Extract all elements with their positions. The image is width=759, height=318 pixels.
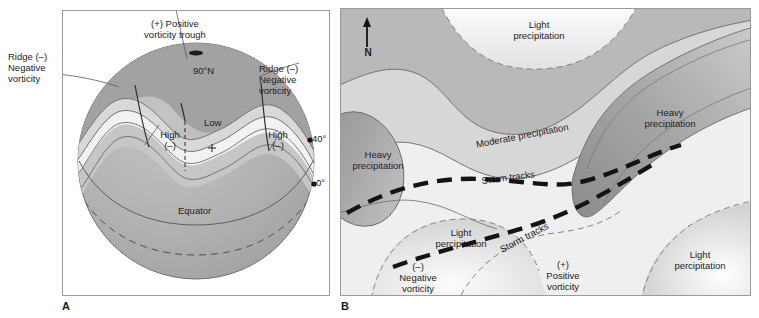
panel-b-map: N Light precipitation Heavy precipitatio… (340, 8, 751, 296)
label-north: N (359, 47, 377, 58)
label-high-left: High (–) (153, 129, 187, 151)
panel-a-globe: (+) Positive vorticity trough 90°N Low H… (62, 10, 330, 296)
label-low: Low (204, 117, 221, 128)
label-pole-90n: 90°N (193, 65, 214, 76)
label-heavy-precip-right: Heavy precipitation (627, 107, 713, 129)
label-high-right: High (–) (261, 129, 295, 151)
label-ridge-right: Ridge (–) Negative vorticity (259, 63, 298, 97)
label-positive-vorticity: (+) Positive vorticity (521, 259, 605, 293)
figure-root: (+) Positive vorticity trough 90°N Low H… (0, 0, 759, 318)
label-positive-vorticity-trough: (+) Positive vorticity trough (127, 18, 223, 40)
label-ridge-left: Ridge (–) Negative vorticity (8, 51, 47, 85)
pole-marker (189, 50, 203, 55)
panel-letter-a: A (62, 300, 70, 312)
label-light-precip-bottom-right: Light percipitation (653, 249, 747, 271)
globe-diagram (63, 11, 329, 295)
label-light-precip-top: Light precipitation (489, 19, 589, 41)
panel-letter-b: B (341, 300, 349, 312)
label-equator: Equator (175, 205, 214, 216)
label-heavy-precip-left: Heavy precipitation (340, 149, 421, 171)
label-lat-40n: 40° N (312, 133, 330, 144)
label-light-precip-bottom-left: Light percipitation (414, 227, 508, 249)
label-negative-vorticity: (–) Negative vorticity (376, 261, 460, 295)
label-lat-0: 0° (316, 177, 325, 188)
